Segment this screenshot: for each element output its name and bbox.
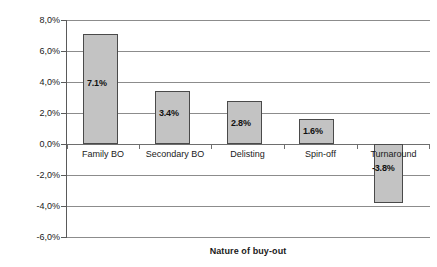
gridline-neg6 [67,237,430,238]
y-tick-label: -4,0% [16,202,60,211]
y-tick-label: -6,0% [16,233,60,242]
bar-value-delisting: 2.8% [231,118,251,128]
category-label-secondary-bo: Secondary BO [139,147,211,161]
category-label-spin-off: Spin-off [284,147,357,161]
gridline-6 [67,51,430,52]
y-tick-label: -2,0% [16,171,60,180]
y-tick-label: 2,0% [16,109,60,118]
gridline-8 [67,20,430,21]
x-axis-category-labels: Family BO Secondary BO Delisting Spin-of… [67,147,430,163]
gridline-4 [67,82,430,83]
bar-value-secondary-bo: 3.4% [159,108,179,118]
gridline-neg4 [67,206,430,207]
y-tick-label: 6,0% [16,47,60,56]
y-axis-tick-labels: 8,0% 6,0% 4,0% 2,0% 0,0% -2,0% -4,0% -6,… [10,0,60,267]
y-tick-label: 8,0% [16,16,60,25]
x-axis-title: Nature of buy-out [67,246,429,256]
plot-area: 7.1% 3.4% 2.8% 1.6% -3.8% [67,20,430,237]
category-label-family-bo: Family BO [67,147,139,161]
bar-value-family-bo: 7.1% [87,78,107,88]
y-tick-label: 4,0% [16,78,60,87]
bar-value-spin-off: 1.6% [303,126,323,136]
bar-value-turnaround: -3.8% [372,163,395,173]
category-label-turnaround: Turnaround [357,147,430,161]
category-label-delisting: Delisting [211,147,284,161]
bar-chart: Percentage of job creation 8,0% 6,0% 4,0… [0,0,437,267]
bar-family-bo [83,34,118,144]
y-tick-label: 0,0% [16,140,60,149]
